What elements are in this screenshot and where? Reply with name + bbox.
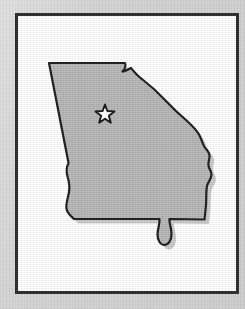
state-outline-georgia — [49, 63, 212, 245]
map-frame-border — [15, 13, 239, 294]
state-map-svg — [18, 16, 236, 291]
map-plate — [18, 16, 236, 291]
map-figure: Georgia — [0, 0, 245, 309]
